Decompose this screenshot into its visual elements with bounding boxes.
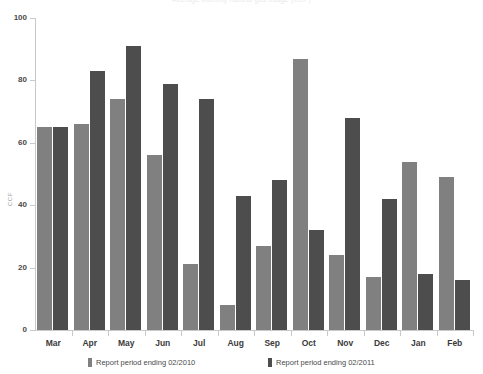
y-tick-label: 80 xyxy=(1,75,27,84)
x-axis-separator xyxy=(218,330,219,336)
x-axis-separator xyxy=(108,330,109,336)
x-tick-label-may: May xyxy=(106,338,146,348)
legend-swatch-icon xyxy=(268,358,272,367)
bar-jun-series2 xyxy=(163,84,178,330)
bar-aug-series1 xyxy=(220,305,235,330)
bar-group xyxy=(35,18,72,330)
x-tick-label-jun: Jun xyxy=(143,338,183,348)
x-tick-label-aug: Aug xyxy=(216,338,256,348)
bar-mar-series1 xyxy=(37,127,52,330)
bar-group xyxy=(108,18,145,330)
bar-may-series2 xyxy=(126,46,141,330)
y-tick-mark xyxy=(30,330,36,331)
y-tick-label: 40 xyxy=(1,200,27,209)
x-axis-separator xyxy=(72,330,73,336)
legend-label: Report period ending 02/2011 xyxy=(276,358,375,367)
bar-nov-series1 xyxy=(329,255,344,330)
x-tick-label-dec: Dec xyxy=(362,338,402,348)
x-tick-label-jul: Jul xyxy=(179,338,219,348)
bar-mar-series2 xyxy=(53,127,68,330)
bar-group xyxy=(364,18,401,330)
bar-oct-series1 xyxy=(293,59,308,330)
legend-label: Report period ending 02/2010 xyxy=(96,358,195,367)
bar-dec-series1 xyxy=(366,277,381,330)
x-axis-separator xyxy=(291,330,292,336)
bar-group xyxy=(437,18,474,330)
bar-group xyxy=(145,18,182,330)
bar-group xyxy=(72,18,109,330)
y-tick-label: 60 xyxy=(1,138,27,147)
bar-apr-series1 xyxy=(74,124,89,330)
x-axis-separator xyxy=(145,330,146,336)
chart-title: Average monthly natural gas usage (CCF) xyxy=(0,0,483,4)
x-tick-label-nov: Nov xyxy=(325,338,365,348)
bar-feb-series1 xyxy=(439,177,454,330)
chart-legend: Report period ending 02/2010Report perio… xyxy=(0,357,483,371)
bar-jun-series1 xyxy=(147,155,162,330)
bar-chart: Average monthly natural gas usage (CCF) … xyxy=(0,0,483,374)
bar-group xyxy=(218,18,255,330)
legend-item-2[interactable]: Report period ending 02/2011 xyxy=(268,358,375,367)
bar-sep-series1 xyxy=(256,246,271,330)
bar-group xyxy=(291,18,328,330)
x-axis-separator xyxy=(437,330,438,336)
bar-jul-series1 xyxy=(183,264,198,330)
bar-group xyxy=(181,18,218,330)
y-tick-label: 0 xyxy=(1,325,27,334)
bar-aug-series2 xyxy=(236,196,251,330)
bar-dec-series2 xyxy=(382,199,397,330)
legend-item-1[interactable]: Report period ending 02/2010 xyxy=(88,358,195,367)
bar-may-series1 xyxy=(110,99,125,330)
x-tick-label-oct: Oct xyxy=(289,338,329,348)
x-tick-label-jan: Jan xyxy=(398,338,438,348)
y-tick-label: 100 xyxy=(1,13,27,22)
bar-jul-series2 xyxy=(199,99,214,330)
bar-group xyxy=(327,18,364,330)
x-tick-label-mar: Mar xyxy=(33,338,73,348)
x-axis-separator xyxy=(181,330,182,336)
legend-swatch-icon xyxy=(88,358,92,367)
bar-jan-series1 xyxy=(402,162,417,330)
x-axis-separator xyxy=(473,330,474,336)
bar-sep-series2 xyxy=(272,180,287,330)
bar-group xyxy=(400,18,437,330)
bar-oct-series2 xyxy=(309,230,324,330)
y-axis-label: CCF xyxy=(7,179,13,219)
x-axis-separator xyxy=(364,330,365,336)
x-axis-separator xyxy=(327,330,328,336)
bar-feb-series2 xyxy=(455,280,470,330)
bar-group xyxy=(254,18,291,330)
x-tick-label-feb: Feb xyxy=(435,338,475,348)
x-tick-label-sep: Sep xyxy=(252,338,292,348)
x-tick-label-apr: Apr xyxy=(70,338,110,348)
y-tick-label: 20 xyxy=(1,263,27,272)
bar-jan-series2 xyxy=(418,274,433,330)
x-axis-separator xyxy=(400,330,401,336)
bar-nov-series2 xyxy=(345,118,360,330)
bar-apr-series2 xyxy=(90,71,105,330)
x-axis-separator xyxy=(254,330,255,336)
